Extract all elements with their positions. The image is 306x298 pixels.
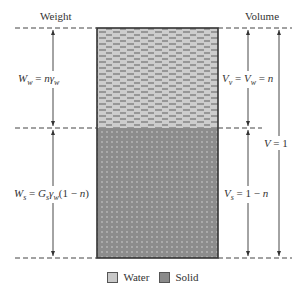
phase-diagram xyxy=(0,0,306,298)
solid-phase xyxy=(97,128,218,258)
weight-header: Weight xyxy=(40,10,72,22)
legend-item-solid: Solid xyxy=(159,271,198,283)
legend-label-solid: Solid xyxy=(175,271,198,283)
total-volume-label: V = 1 xyxy=(264,136,288,150)
volume-header: Volume xyxy=(245,10,279,22)
legend-item-water: Water xyxy=(107,271,149,283)
solid-swatch-icon xyxy=(159,272,170,283)
legend-label-water: Water xyxy=(123,271,149,283)
legend: Water Solid xyxy=(0,271,306,283)
water-swatch-icon xyxy=(107,272,118,283)
solid-volume-label: Vs = 1 − n xyxy=(224,186,268,203)
water-weight-label: Ww = nγw xyxy=(18,71,59,88)
solid-weight-label: Ws = Gsγw(1 − n) xyxy=(14,186,89,203)
void-volume-label: Vv = Vw = n xyxy=(222,71,273,88)
water-phase xyxy=(97,28,218,128)
